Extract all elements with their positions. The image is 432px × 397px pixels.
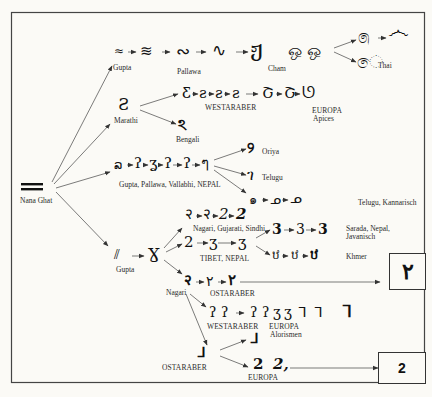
glyph-ngs-4: 2 [236,207,246,222]
glyph-ngs-3: 2 [219,207,229,222]
glyph-gupta-low-2: Ɣ [148,246,160,263]
glyph-gpvn-2: ʔ [134,156,142,171]
glyph-gpvn-1: ລ [114,158,122,171]
glyph-tn-3: ʒ [238,235,246,250]
glyph-nagari-1: २ [184,273,192,288]
glyph-europa-apices-3: ᘎ [302,85,315,101]
glyph-europa-alorismen-1: ʔ [250,305,258,319]
label-ostaraber-1: OSTARABER [210,290,255,298]
arabic-two-glyph: ٢ [402,259,414,285]
glyph-europa-apices-1: Շ [262,86,273,101]
glyph-marathi: Ƨ [118,97,129,113]
glyph-gupta-top-4: ∿ [212,42,226,59]
glyph-westaraber-2: ƨ [199,86,207,101]
label-cham: Cham [268,65,286,73]
label-pallawa: Pallawa [177,68,201,76]
glyph-europa-alorismen-7: ᒣ [342,304,352,320]
glyph-gupta-top-3: ∾ [176,43,190,60]
glyph-sarada-1: 3 [272,222,282,236]
glyph-tn-2: ʒ [209,235,217,250]
label-oriya: Oriya [262,148,279,156]
numeral-two-evolution-diagram: Nana Ghat Gupta ≈ ≋ ∾ ∿ ჟ ஒ ஒ Pallawa Ch… [0,0,432,397]
label-apices: Apices [313,115,334,123]
glyph-westaraber-3: ƨ [215,86,223,101]
western-two-glyph: 2 [398,360,406,376]
label-javanisch: Javanisch [346,233,375,241]
glyph-thai-late: ෴ [388,20,409,42]
glyph-gupta-low-1: ⫽ [114,248,120,261]
glyph-khmer-3: ឋ [310,248,318,261]
label-gupta-pallawa-vallabhi-nepal: Gupta, Pallawa, Vallabhi, NEPAL [119,181,221,189]
glyph-westaraber-low-1: ʔ [209,305,218,319]
result-box-western-two: 2 [378,352,426,384]
glyph-westaraber-4: ƨ [232,86,240,101]
label-khmer: Khmer [346,253,367,261]
glyph-telugu-kannarisch-3: ᓄ [290,191,302,205]
glyph-ostaraber-2: ٢ [228,273,236,288]
glyph-cham-derived: ෧ [358,28,370,46]
label-marathi: Marathi [114,117,138,125]
glyph-gpvn-3: ʓ [149,156,157,171]
glyph-europa-alorismen-3: ʒ [273,305,281,319]
label-gupta-low: Gupta [116,266,134,274]
glyph-gupta-top-2: ≋ [140,44,153,59]
glyph-ostaraber-2a: ᒧ [197,345,206,359]
glyph-gpvn-4: ʔ [164,156,172,171]
glyph-europa-alorismen-6: ᒣ [314,305,323,319]
result-box-arabic-two: ٢ [389,253,426,290]
glyph-telugu-kannarisch-2: ᓄ [270,193,281,206]
glyph-khmer-2: ឋ [291,249,299,261]
label-bengali: Bengali [176,136,199,144]
glyph-oriya: ୨ [247,141,254,156]
glyph-gupta-top-1: ≈ [114,45,124,57]
label-europa-2: EUROPA [248,374,278,382]
glyph-gpvn-5: ʔ [183,156,191,171]
label-westaraber-top: WESTARABER [205,104,256,112]
glyph-ngs-1: २ [185,207,193,222]
glyph-europa-alorismen-5: ᒣ [298,305,307,319]
glyph-europa-alorismen-4: ʒ [284,305,292,319]
root-label-nana-ghat: Nana Ghat [20,197,52,205]
label-alorismen: Alorismen [270,331,302,339]
label-thai: Thai [378,62,392,70]
glyph-westaraber-1: Ƹ [182,86,190,101]
glyph-cham: ஒ ஒ [288,42,321,59]
label-nagari-gujarati-sindhi: Nagari, Gujarati, Sindhi [193,225,265,233]
glyph-westaraber-low-2: ʔ [221,305,229,319]
glyph-ostaraber-2b: ᒧ [250,331,259,345]
glyph-sarada-3: 3 [318,222,328,236]
label-nagari: Nagari [166,289,186,297]
glyph-europa-alorismen-2: ʔ [262,305,270,319]
glyph-europa-low-1: 2 [253,357,263,372]
glyph-gpvn-6: ๆ [201,156,209,171]
glyph-ostaraber-1: ٢ [206,274,214,288]
glyph-telugu-kannarisch-1: ๑ [249,193,257,206]
label-ostaraber-2: OSTARABER [162,364,207,372]
glyph-telugu: ገ [247,168,254,183]
glyph-europa-apices-2: Շ [284,86,295,101]
glyph-tn-1: 2 [184,235,194,250]
glyph-khmer-1: ឋ [272,249,280,261]
label-tibet-nepal: TIBET, NEPAL [200,255,249,263]
glyph-ngs-2: २ [203,207,211,222]
label-gupta-top: Gupta [113,64,131,72]
glyph-bengali: ঽ [178,117,187,133]
glyph-sarada-2: 3 [296,222,305,236]
label-telugu-kannarisch: Telugu, Kannarisch [358,199,417,207]
glyph-gupta-top-5: ჟ [250,38,263,60]
label-telugu: Telugu [262,174,283,182]
glyph-europa-low-2: 2, [273,357,289,372]
